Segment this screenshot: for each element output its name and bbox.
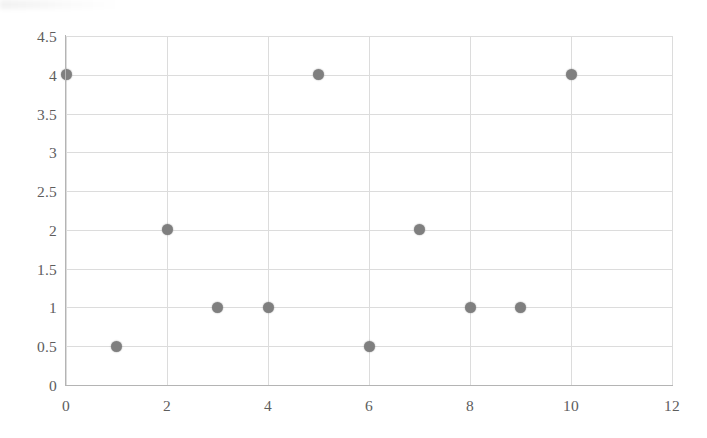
x-axis-tick-label: 2 (137, 398, 197, 414)
y-axis-tick-label: 1.5 (5, 262, 57, 278)
y-axis-tick-label: 0 (5, 378, 57, 394)
data-point-marker (313, 69, 324, 80)
y-axis-tick-label: 4.5 (5, 29, 57, 45)
y-axis-tick-label: 3 (5, 145, 57, 161)
data-point-marker (212, 302, 223, 313)
gridline-vertical (167, 36, 168, 385)
x-axis-tick-label: 0 (36, 398, 96, 414)
x-axis-tick-label: 12 (642, 398, 702, 414)
data-point-marker (162, 224, 173, 235)
data-point-marker (263, 302, 274, 313)
x-axis-tick-label: 4 (238, 398, 298, 414)
gridline-vertical (66, 36, 67, 385)
gridline-vertical (369, 36, 370, 385)
scatter-chart: 00.511.522.533.544.5 024681012 (0, 0, 707, 438)
x-axis-line (65, 385, 673, 386)
data-point-marker (61, 69, 72, 80)
x-axis-tick-label: 6 (339, 398, 399, 414)
y-axis-tick-label: 1 (5, 300, 57, 316)
data-point-marker (566, 69, 577, 80)
data-point-marker (515, 302, 526, 313)
y-axis-tick-labels: 00.511.522.533.544.5 (0, 0, 57, 438)
x-axis-tick-labels: 024681012 (0, 398, 707, 422)
plot-area (66, 36, 672, 385)
y-axis-tick-label: 4 (5, 68, 57, 84)
data-point-marker (414, 224, 425, 235)
y-axis-tick-label: 0.5 (5, 339, 57, 355)
data-point-marker (465, 302, 476, 313)
data-point-marker (111, 341, 122, 352)
gridline-vertical (571, 36, 572, 385)
x-axis-tick-label: 10 (541, 398, 601, 414)
gridline-vertical (672, 36, 673, 385)
y-axis-tick-label: 2.5 (5, 184, 57, 200)
y-axis-line (65, 35, 66, 386)
gridline-vertical (268, 36, 269, 385)
x-axis-tick-label: 8 (440, 398, 500, 414)
y-axis-tick-label: 2 (5, 223, 57, 239)
gridline-vertical (470, 36, 471, 385)
data-point-marker (364, 341, 375, 352)
y-axis-tick-label: 3.5 (5, 107, 57, 123)
